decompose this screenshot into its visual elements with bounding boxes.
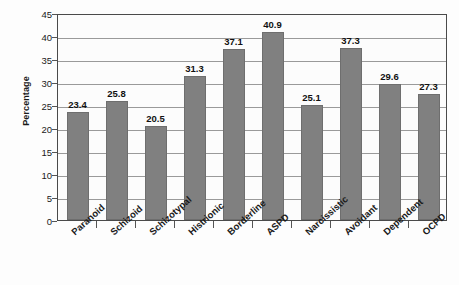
bar-group: 40.9 [253,15,292,220]
bar-group: 25.1 [292,15,331,220]
x-axis-tick-mark [369,221,370,228]
bar-value-label: 37.1 [224,36,243,47]
bar-value-label: 20.5 [146,113,165,124]
bar-value-label: 31.3 [185,63,204,74]
bars-layer: 23.425.820.531.337.140.925.137.329.627.3 [58,15,446,220]
y-axis-tick-label: 10 [30,170,52,181]
y-axis-tick-label: 20 [30,124,52,135]
bar [262,32,284,220]
bar-group: 27.3 [409,15,448,220]
bar-group: 37.1 [214,15,253,220]
x-axis-tick-mark [135,221,136,228]
y-axis-tick-mark [52,14,57,15]
y-axis-tick-mark [52,37,57,38]
bar [67,112,89,220]
y-axis-tick-label: 5 [30,193,52,204]
y-axis-tick-mark [52,175,57,176]
bar-value-label: 37.3 [341,35,360,46]
x-axis-tick-mark [291,221,292,228]
bar-group: 25.8 [97,15,136,220]
bar-value-label: 27.3 [419,81,438,92]
bar-group: 20.5 [136,15,175,220]
y-axis-tick-label: 25 [30,101,52,112]
y-axis-tick-label: 15 [30,147,52,158]
y-axis-tick-mark [52,198,57,199]
y-axis-tick-mark [52,129,57,130]
x-axis-tick-labels: ParanoidSchizoidSchizotypalHistrionicBor… [57,229,457,285]
y-axis-tick-label: 0 [30,216,52,227]
x-axis-tick-mark [174,221,175,228]
y-axis-tick-label: 45 [30,9,52,20]
x-axis-tick-mark [213,221,214,228]
x-axis-tick-mark [408,221,409,228]
bar-value-label: 40.9 [263,19,282,30]
bar-value-label: 25.1 [302,92,321,103]
bar [106,101,128,220]
bar-group: 37.3 [331,15,370,220]
y-axis-tick-mark [52,83,57,84]
y-axis-tick-label: 30 [30,78,52,89]
bar-value-label: 23.4 [68,99,87,110]
x-axis-tick-mark [330,221,331,228]
bar-group: 31.3 [175,15,214,220]
y-axis-tick-mark [52,106,57,107]
bar [145,126,167,220]
bar-chart: Percentage 454035302520151050 23.425.820… [0,0,459,285]
y-axis-tick-mark [52,60,57,61]
y-axis-tick-label: 40 [30,32,52,43]
y-axis-tick-label: 35 [30,55,52,66]
y-axis-tick-labels: 454035302520151050 [30,14,52,221]
bar [301,105,323,220]
y-axis-tick-mark [52,221,57,222]
x-axis-tick-mark [252,221,253,228]
bar [223,49,245,220]
x-axis-tick-mark [96,221,97,228]
bar [379,84,401,220]
bar-value-label: 29.6 [380,71,399,82]
plot-area: 23.425.820.531.337.140.925.137.329.627.3 [57,14,447,221]
y-axis-tick-mark [52,152,57,153]
bar-value-label: 25.8 [107,88,126,99]
bar-group: 23.4 [58,15,97,220]
bar-group: 29.6 [370,15,409,220]
